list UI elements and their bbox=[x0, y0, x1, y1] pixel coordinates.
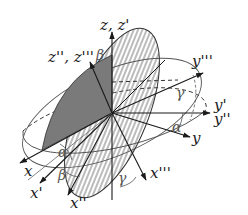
label-beta-top: β bbox=[95, 47, 104, 63]
label-y2: y'' bbox=[213, 110, 231, 128]
label-x2: x'' bbox=[70, 194, 87, 212]
label-gamma-right: γ bbox=[176, 85, 185, 101]
label-x1: x' bbox=[30, 184, 43, 202]
label-z-z1: z, z' bbox=[99, 16, 129, 34]
label-x: x bbox=[24, 162, 33, 180]
label-beta-bottom: β bbox=[57, 167, 66, 183]
label-alpha-left: α bbox=[58, 144, 68, 160]
label-z2-z3: z'', z''' bbox=[47, 48, 94, 66]
label-alpha-right: α bbox=[172, 119, 182, 135]
euler-angles-diagram: z, z' z'', z''' y''' y' y'' y x x' x'' x… bbox=[0, 0, 248, 215]
label-y: y bbox=[191, 129, 201, 147]
label-y3: y''' bbox=[191, 52, 213, 70]
label-x3: x''' bbox=[150, 164, 171, 182]
label-gamma-bottom: γ bbox=[118, 170, 127, 186]
